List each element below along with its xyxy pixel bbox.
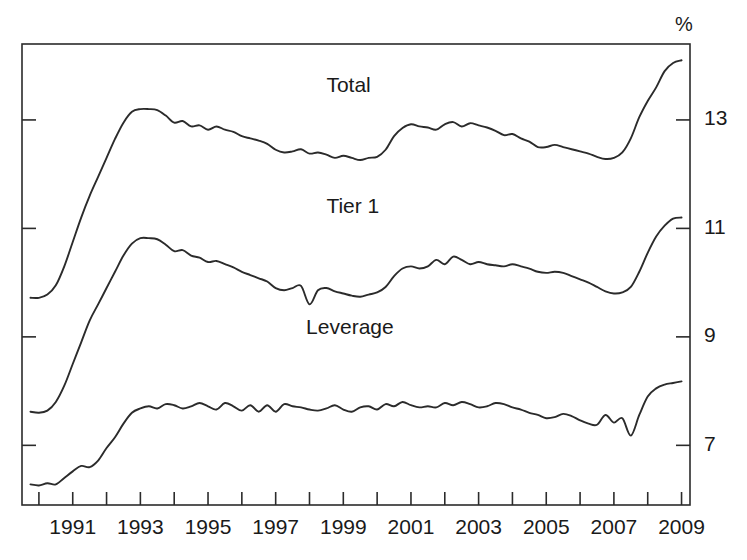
y-tick-label-11: 11 [704,215,726,238]
series-inline-labels: TotalTier 1Leverage [306,73,394,338]
x-tick-label-1999: 1999 [320,515,367,538]
y-tick-label-13: 13 [704,106,727,129]
x-tick-label-2009: 2009 [658,515,705,538]
y-axis-tick-labels: 791113 [704,106,727,454]
x-axis-tick-labels: 1991199319951997199920012003200520072009 [49,515,705,538]
x-tick-label-2003: 2003 [455,515,502,538]
series-lines [30,60,681,485]
capital-ratios-chart: 791113 199119931995199719992001200320052… [0,0,747,560]
series-line-leverage [30,381,681,485]
x-tick-label-1997: 1997 [252,515,299,538]
x-axis-ticks [39,492,682,505]
series-label-total: Total [326,73,370,96]
series-label-leverage: Leverage [306,315,394,338]
x-tick-label-1993: 1993 [117,515,164,538]
y-tick-label-9: 9 [704,323,716,346]
x-tick-label-1995: 1995 [185,515,232,538]
chart-root: 791113 199119931995199719992001200320052… [0,0,747,560]
plot-frame [22,44,690,505]
x-tick-label-1991: 1991 [49,515,96,538]
y-axis-unit-label: % [675,13,693,35]
y-tick-label-7: 7 [704,432,716,455]
x-tick-label-2007: 2007 [591,515,638,538]
series-label-tier-1: Tier 1 [326,194,379,217]
x-tick-label-2005: 2005 [523,515,570,538]
series-line-total [30,60,681,298]
x-tick-label-2001: 2001 [388,515,435,538]
plot-border [22,44,690,505]
